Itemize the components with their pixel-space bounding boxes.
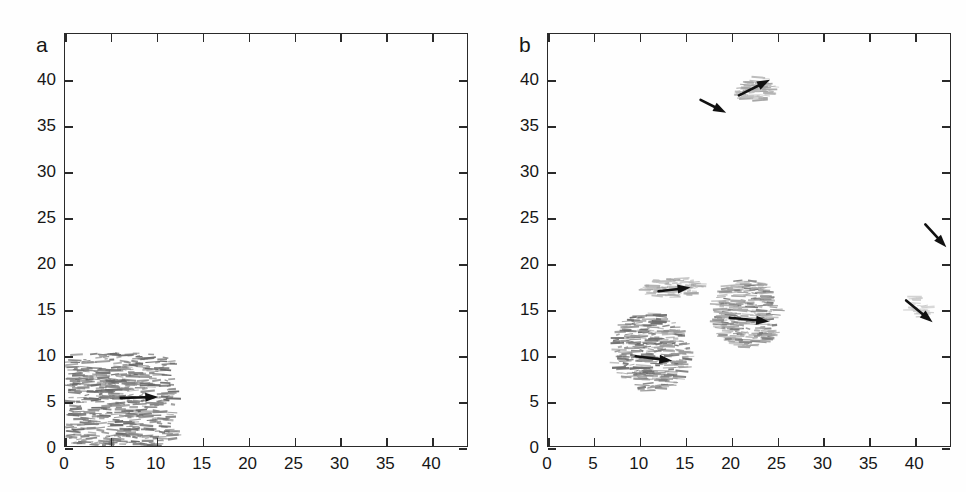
y-tick-label: 40: [16, 71, 56, 88]
x-tick-bottom: [249, 438, 251, 446]
upper-free-arrow: [701, 100, 727, 113]
y-tick-label: 15: [16, 301, 56, 318]
y-tick-label: 20: [499, 255, 539, 272]
x-tick-label: 20: [238, 455, 257, 472]
x-tick-top: [823, 34, 825, 42]
y-tick-label: 40: [499, 71, 539, 88]
y-tick-label: 0: [16, 439, 56, 456]
panel-a-letter: a: [36, 34, 48, 55]
x-tick-label: 5: [588, 455, 597, 472]
upper-cluster-velocity-arrow: [739, 80, 770, 96]
figure-canvas: a 05101520253035400510152025303540 b 051…: [0, 0, 966, 492]
x-tick-bottom: [640, 438, 642, 446]
x-tick-top: [778, 34, 780, 42]
mid-band-velocity-arrow: [659, 284, 691, 293]
x-tick-bottom: [432, 438, 434, 446]
x-tick-label: 40: [905, 455, 924, 472]
x-tick-bottom: [386, 438, 388, 446]
y-tick-left: [548, 80, 556, 82]
x-tick-top: [65, 34, 67, 42]
y-tick-right: [459, 402, 467, 404]
x-tick-bottom: [869, 438, 871, 446]
x-tick-top: [386, 34, 388, 42]
x-tick-top: [295, 34, 297, 42]
y-tick-right: [459, 356, 467, 358]
y-tick-label: 25: [499, 209, 539, 226]
y-tick-right: [942, 356, 950, 358]
x-tick-bottom: [778, 438, 780, 446]
y-tick-left: [65, 126, 73, 128]
x-tick-label: 35: [376, 455, 395, 472]
x-tick-bottom: [65, 438, 67, 446]
y-tick-right: [459, 80, 467, 82]
x-tick-bottom: [732, 438, 734, 446]
y-tick-left: [548, 126, 556, 128]
panel-b-arrows: [548, 34, 950, 446]
x-tick-top: [732, 34, 734, 42]
y-tick-label: 30: [16, 163, 56, 180]
panel-a-plot-box: [64, 33, 468, 447]
y-tick-right: [942, 264, 950, 266]
panel-b: b 05101520253035400510152025303540: [483, 0, 966, 492]
x-tick-label: 30: [813, 455, 832, 472]
y-tick-right: [942, 80, 950, 82]
x-tick-top: [869, 34, 871, 42]
y-tick-right: [459, 126, 467, 128]
right-center-velocity-arrow: [730, 316, 769, 325]
x-tick-label: 25: [284, 455, 303, 472]
y-tick-left: [65, 356, 73, 358]
x-tick-bottom: [295, 438, 297, 446]
y-tick-left: [548, 264, 556, 266]
x-tick-label: 15: [192, 455, 211, 472]
y-tick-right: [942, 172, 950, 174]
y-tick-left: [548, 172, 556, 174]
y-tick-right: [942, 402, 950, 404]
x-tick-bottom: [203, 438, 205, 446]
y-tick-left: [548, 356, 556, 358]
y-tick-label: 20: [16, 255, 56, 272]
x-tick-label: 15: [675, 455, 694, 472]
y-tick-left: [65, 80, 73, 82]
y-tick-label: 10: [16, 347, 56, 364]
y-tick-right: [459, 264, 467, 266]
x-tick-top: [157, 34, 159, 42]
y-tick-left: [65, 172, 73, 174]
y-tick-left: [65, 264, 73, 266]
y-tick-label: 35: [499, 117, 539, 134]
x-tick-top: [686, 34, 688, 42]
x-tick-bottom: [548, 438, 550, 446]
x-tick-bottom: [157, 438, 159, 446]
y-tick-right: [459, 310, 467, 312]
x-tick-top: [111, 34, 113, 42]
x-tick-bottom: [915, 438, 917, 446]
y-tick-label: 15: [499, 301, 539, 318]
y-tick-label: 35: [16, 117, 56, 134]
cluster-a-velocity-arrow: [121, 393, 158, 402]
x-tick-label: 0: [542, 455, 551, 472]
x-tick-top: [548, 34, 550, 42]
y-tick-left: [548, 218, 556, 220]
x-tick-label: 40: [422, 455, 441, 472]
x-tick-top: [203, 34, 205, 42]
x-tick-label: 20: [721, 455, 740, 472]
y-tick-label: 25: [16, 209, 56, 226]
x-tick-bottom: [340, 438, 342, 446]
x-tick-top: [915, 34, 917, 42]
x-tick-label: 30: [330, 455, 349, 472]
y-tick-label: 0: [499, 439, 539, 456]
panel-a-arrows: [65, 34, 467, 446]
panel-b-letter: b: [519, 34, 531, 55]
x-tick-label: 35: [859, 455, 878, 472]
x-tick-bottom: [594, 438, 596, 446]
y-tick-left: [65, 448, 73, 450]
right-edge-upper-arrow: [925, 224, 946, 247]
x-tick-top: [432, 34, 434, 42]
x-tick-label: 10: [146, 455, 165, 472]
x-tick-bottom: [111, 438, 113, 446]
y-tick-right: [459, 448, 467, 450]
x-tick-label: 0: [59, 455, 68, 472]
y-tick-left: [548, 310, 556, 312]
y-tick-label: 5: [499, 393, 539, 410]
x-tick-label: 25: [767, 455, 786, 472]
panel-a: a 05101520253035400510152025303540: [0, 0, 483, 492]
